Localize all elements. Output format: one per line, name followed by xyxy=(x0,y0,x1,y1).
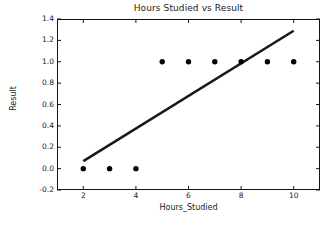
y-tick-label: 0.0 xyxy=(28,164,54,173)
x-tick-label: 6 xyxy=(177,191,201,200)
x-axis-label: Hours_Studied xyxy=(57,203,320,212)
scatter-point xyxy=(238,59,243,64)
x-tick-label: 2 xyxy=(71,191,95,200)
x-tick-label: 10 xyxy=(282,191,306,200)
y-tick-label: 0.8 xyxy=(28,78,54,87)
regression-line xyxy=(83,31,293,161)
y-tick-label: 1.0 xyxy=(28,57,54,66)
fitted-line-group xyxy=(83,31,293,161)
scatter-points-group xyxy=(81,59,297,171)
scatter-point xyxy=(107,166,112,171)
scatter-point xyxy=(186,59,191,64)
scatter-point xyxy=(81,166,86,171)
y-tick-label: 1.4 xyxy=(28,14,54,23)
y-tick-label: -0.2 xyxy=(28,185,54,194)
matplotlib-figure: Hours Studied vs Result Result -0.20.00.… xyxy=(0,0,334,226)
scatter-point xyxy=(133,166,138,171)
tick-marks xyxy=(57,19,320,190)
y-axis-tick-labels: -0.20.00.20.40.60.81.01.21.4 xyxy=(26,19,54,190)
plot-canvas xyxy=(57,19,320,190)
scatter-point xyxy=(291,59,296,64)
y-tick-label: 0.4 xyxy=(28,121,54,130)
x-tick-label: 8 xyxy=(229,191,253,200)
y-tick-label: 0.6 xyxy=(28,100,54,109)
scatter-point xyxy=(265,59,270,64)
y-tick-label: 1.2 xyxy=(28,35,54,44)
x-tick-label: 4 xyxy=(124,191,148,200)
y-axis-label: Result xyxy=(9,69,18,129)
scatter-point xyxy=(160,59,165,64)
y-tick-label: 0.2 xyxy=(28,142,54,151)
page-title: Hours Studied vs Result xyxy=(57,3,320,13)
scatter-point xyxy=(212,59,217,64)
